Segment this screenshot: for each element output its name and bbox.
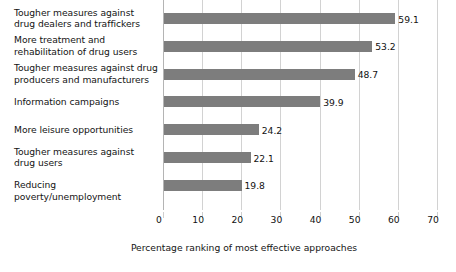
- bar-value-label: 59.1: [398, 14, 418, 25]
- category-axis-labels: Tougher measures againstdrug dealers and…: [0, 0, 160, 210]
- gridline: [398, 0, 399, 210]
- x-axis-tick-label: 30: [271, 214, 283, 226]
- gridline: [437, 0, 438, 210]
- bar-value-label: 24.2: [262, 125, 282, 136]
- category-label: More treatment andrehabilitation of drug…: [14, 34, 162, 57]
- x-axis-title: Percentage ranking of most effective app…: [0, 242, 456, 253]
- category-label: Tougher measures against drugproducers a…: [14, 62, 162, 85]
- plot-area: 59.153.248.739.924.222.119.8: [163, 0, 437, 210]
- x-axis-title-text: Percentage ranking of most effective app…: [99, 242, 357, 253]
- category-label-line: drug users: [14, 157, 162, 168]
- x-axis-tick-mark: [163, 212, 164, 218]
- category-label: Tougher measures againstdrug dealers and…: [14, 7, 162, 30]
- category-label-line: Tougher measures against: [14, 7, 162, 18]
- bar-value-label: 53.2: [375, 41, 395, 52]
- x-axis-tick-labels: 010203040506070: [163, 212, 437, 228]
- x-axis-tick-label: 0: [156, 214, 162, 226]
- bar-value-label: 48.7: [358, 69, 378, 80]
- x-axis-tick-label: 70: [427, 214, 439, 226]
- x-axis-tick-label: 40: [310, 214, 322, 226]
- bar: [164, 96, 320, 107]
- category-label-line: rehabilitation of drug users: [14, 46, 162, 57]
- category-label-line: Tougher measures against: [14, 146, 162, 157]
- category-label-line: Information campaigns: [14, 96, 162, 107]
- bar-value-label: 19.8: [245, 180, 265, 191]
- bar-value-label: 39.9: [323, 97, 343, 108]
- bar-value-label: 22.1: [254, 153, 274, 164]
- bar: [164, 180, 242, 191]
- category-label: Tougher measures againstdrug users: [14, 146, 162, 169]
- x-axis-tick-label: 50: [349, 214, 361, 226]
- bar: [164, 152, 251, 163]
- bar-chart: Tougher measures againstdrug dealers and…: [0, 0, 456, 272]
- x-axis-tick-label: 10: [192, 214, 204, 226]
- category-label: Information campaigns: [14, 96, 162, 107]
- bar: [164, 124, 259, 135]
- gridline: [359, 0, 360, 210]
- category-label: Reducing poverty/unemployment: [14, 179, 162, 202]
- category-label-line: Tougher measures against drug: [14, 62, 162, 73]
- category-label-line: Reducing poverty/unemployment: [14, 179, 162, 202]
- bar: [164, 69, 355, 80]
- x-axis-tick-label: 60: [388, 214, 400, 226]
- bar: [164, 13, 395, 24]
- bar: [164, 41, 372, 52]
- category-label-line: More treatment and: [14, 34, 162, 45]
- category-label: More leisure opportunities: [14, 124, 162, 135]
- category-label-line: drug dealers and traffickers: [14, 18, 162, 29]
- x-axis-tick-label: 20: [231, 214, 243, 226]
- category-label-line: producers and manufacturers: [14, 74, 162, 85]
- category-label-line: More leisure opportunities: [14, 124, 162, 135]
